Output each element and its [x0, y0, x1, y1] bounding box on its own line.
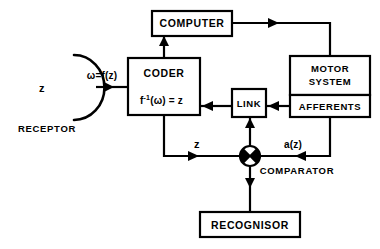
coder-formula-exponent: -1	[144, 94, 151, 101]
coder-label: CODER	[144, 67, 185, 79]
motor-system-label-line2: SYSTEM	[309, 76, 352, 87]
wire-link-to-coder	[200, 101, 232, 111]
wire-receptor-to-coder	[96, 82, 128, 92]
motor-system-label-line1: MOTOR	[311, 63, 349, 74]
wire-comparator-to-link	[245, 117, 255, 146]
wire-coder-to-comparator	[164, 115, 240, 161]
comparator-caption: COMPARATOR	[260, 165, 335, 176]
comparator-symbol[interactable]	[240, 146, 260, 166]
edge-label-omega-f-z: ω=f(z)	[87, 70, 117, 81]
receptor-caption: RECEPTOR	[18, 123, 76, 134]
wire-coder-to-computer	[159, 36, 169, 58]
computer-label: COMPUTER	[160, 17, 225, 29]
diagram-canvas: COMPUTER CODER f-1(ω) = z MOTOR SYSTEM A…	[0, 0, 380, 249]
link-label: LINK	[237, 98, 262, 109]
wire-comparator-to-recognisor	[245, 166, 255, 212]
wire-computer-to-motor	[232, 18, 330, 56]
edge-label-a-z: a(z)	[284, 139, 302, 150]
afferents-label: AFFERENTS	[299, 101, 361, 112]
block-diagram: COMPUTER CODER f-1(ω) = z MOTOR SYSTEM A…	[0, 0, 380, 249]
edge-label-z: z	[194, 138, 200, 150]
receptor-input-label: z	[39, 82, 45, 94]
wire-afferents-to-link	[266, 101, 290, 111]
recognisor-label: RECOGNISOR	[211, 219, 289, 231]
coder-formula-rest: (ω) = z	[150, 95, 183, 106]
